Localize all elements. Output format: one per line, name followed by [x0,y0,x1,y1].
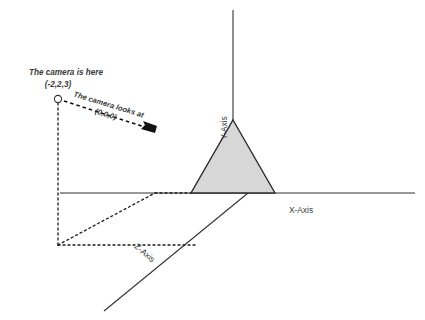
x-axis-label: X-Axis [289,205,313,215]
camera-position-value: (-2,2,3) [45,80,72,89]
camera-position-label: The camera is here [29,68,104,77]
diagram-canvas: The camera is here (-2,2,3) The camera l… [0,0,425,320]
camera-axis-diagram: The camera is here (-2,2,3) The camera l… [0,0,425,320]
camera-position-marker [54,95,61,102]
z-axis-line [104,193,248,311]
triangle-object [191,120,275,193]
camera-look-at-arrowhead-icon [141,121,157,133]
y-axis-label-group: Y-Axis [219,116,229,139]
projection-diagonal-line [58,193,155,245]
y-axis-label: Y-Axis [219,116,229,139]
